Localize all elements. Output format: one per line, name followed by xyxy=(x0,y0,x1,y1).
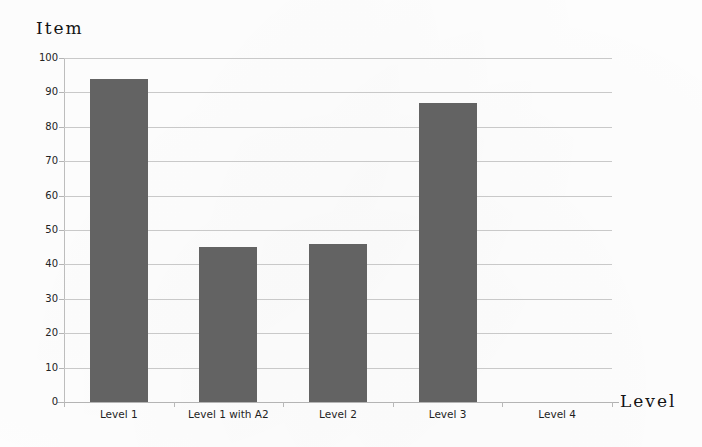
y-axis-tick xyxy=(59,264,64,265)
y-axis-tick-label: 20 xyxy=(28,328,58,338)
x-axis-tick-label: Level 1 xyxy=(64,408,174,420)
y-axis-tick-label: 0 xyxy=(28,397,58,407)
y-axis-tick-label: 30 xyxy=(28,294,58,304)
y-axis-tick-label: 70 xyxy=(28,156,58,166)
y-axis-tick-label: 100 xyxy=(28,53,58,63)
y-axis-tick-label: 10 xyxy=(28,363,58,373)
x-axis-tick xyxy=(393,402,394,407)
y-axis-tick-label: 40 xyxy=(28,259,58,269)
y-axis-tick-label: 90 xyxy=(28,87,58,97)
plot-area xyxy=(64,58,612,402)
y-axis-title: Item xyxy=(36,18,84,38)
gridline xyxy=(64,58,612,59)
y-axis-tick xyxy=(59,299,64,300)
y-axis-tick-label: 60 xyxy=(28,191,58,201)
y-axis-tick xyxy=(59,368,64,369)
x-axis-tick xyxy=(283,402,284,407)
x-axis-tick-label: Level 2 xyxy=(283,408,393,420)
x-axis-tick xyxy=(64,402,65,407)
x-axis-tick-label: Level 4 xyxy=(502,408,612,420)
bar-chart-figure: Item Level 1009080706050403020100 Level … xyxy=(0,0,702,447)
bar xyxy=(419,103,477,402)
y-axis-tick-label: 80 xyxy=(28,122,58,132)
x-axis-tick-label: Level 1 with A2 xyxy=(174,408,284,420)
x-axis-tick-label: Level 3 xyxy=(393,408,503,420)
y-axis-tick xyxy=(59,127,64,128)
bar xyxy=(309,244,367,402)
y-axis-tick xyxy=(59,333,64,334)
y-axis-tick xyxy=(59,161,64,162)
bar xyxy=(199,247,257,402)
y-axis-tick-labels: 1009080706050403020100 xyxy=(26,58,58,402)
x-axis-title: Level xyxy=(620,391,676,411)
gridline xyxy=(64,402,612,403)
x-axis-tick xyxy=(502,402,503,407)
y-axis-tick xyxy=(59,58,64,59)
x-axis-tick xyxy=(612,402,613,407)
y-axis-tick-label: 50 xyxy=(28,225,58,235)
y-axis-tick xyxy=(59,92,64,93)
bar xyxy=(90,79,148,402)
y-axis-tick xyxy=(59,196,64,197)
y-axis-tick xyxy=(59,230,64,231)
x-axis-tick xyxy=(174,402,175,407)
